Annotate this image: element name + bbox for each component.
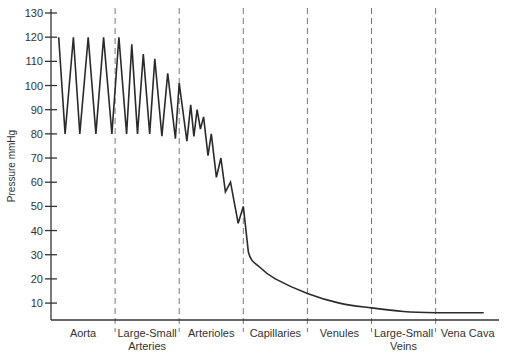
y-tick-label: 80 [31,128,43,140]
category-label: Vena Cava [441,327,496,339]
y-tick-label: 90 [31,104,43,116]
y-tick-label: 100 [25,80,43,92]
x-axis-category-labels: AortaLarge-SmallArteriesArteriolesCapill… [70,327,496,352]
y-tick-label: 60 [31,176,43,188]
y-tick-label: 110 [25,55,43,67]
y-tick-label: 50 [31,200,43,212]
category-label: Large-SmallArteries [117,327,176,352]
category-label: Large-SmallVeins [374,327,433,352]
y-tick-label: 130 [25,7,43,19]
y-tick-label: 30 [31,249,43,261]
category-label: Capillaries [250,327,302,339]
y-axis-label: Pressure mmHg [6,130,17,202]
segment-dividers [115,8,436,332]
pressure-curve [59,37,484,313]
y-axis-ticks: 102030405060708090100110120130 [25,7,57,309]
category-label: Arterioles [188,327,235,339]
y-tick-label: 40 [31,225,43,237]
y-tick-label: 10 [31,297,43,309]
y-tick-label: 20 [31,273,43,285]
y-tick-label: 70 [31,152,43,164]
pressure-chart: 102030405060708090100110120130 AortaLarg… [0,0,511,360]
category-label: Venules [320,327,360,339]
category-label: Aorta [70,327,97,339]
y-tick-label: 120 [25,31,43,43]
